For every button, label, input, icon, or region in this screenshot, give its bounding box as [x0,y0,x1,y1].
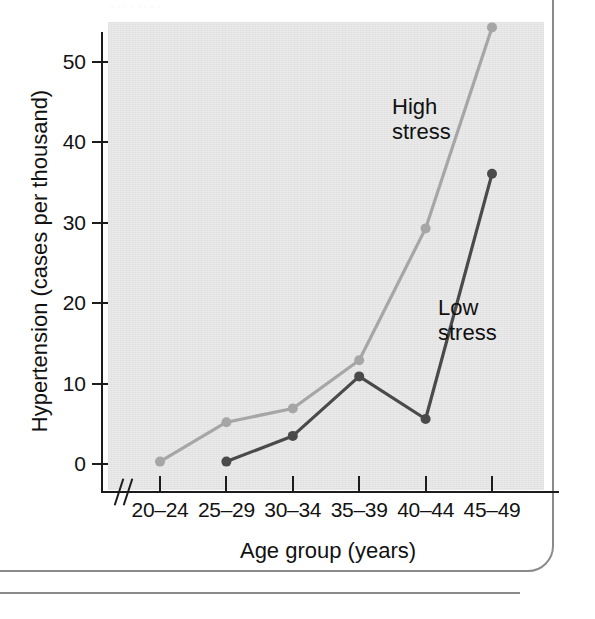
series-label-low-stress: Low stress [438,296,497,345]
data-point-high-stress [354,355,364,365]
y-axis-title: Hypertension (cases per thousand) [27,26,53,496]
series-line-high-stress [160,27,492,461]
data-point-low-stress [487,169,497,179]
data-point-high-stress [421,223,431,233]
hypertension-line-chart: 01020304050 20–2425–2930–3435–3940–4445–… [0,0,595,619]
data-point-low-stress [221,457,231,467]
series-label-high-stress-line1: High [392,95,451,120]
data-point-high-stress [221,417,231,427]
series-label-high-stress: High stress [392,95,451,144]
data-point-high-stress [487,22,497,32]
x-axis-title: Age group (years) [108,538,548,564]
series-label-low-stress-line2: stress [438,321,497,346]
data-point-low-stress [421,414,431,424]
series-label-low-stress-line1: Low [438,296,497,321]
data-point-low-stress [288,431,298,441]
data-point-high-stress [155,457,165,467]
data-point-low-stress [354,371,364,381]
series-plot [0,0,595,619]
series-label-high-stress-line2: stress [392,120,451,145]
data-point-high-stress [288,404,298,414]
